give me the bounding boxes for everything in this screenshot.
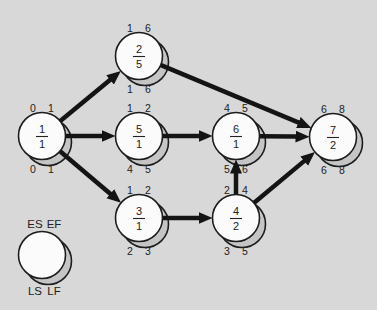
activity-duration: 1 — [136, 138, 142, 150]
early-finish-value: 6 — [145, 22, 151, 34]
early-start-value: 6 — [321, 103, 327, 115]
early-finish-value: 4 — [242, 184, 248, 196]
early-start-value: 1 — [127, 184, 133, 196]
activity-number: 2 — [136, 43, 142, 55]
early-start-value: 0 — [30, 102, 36, 114]
early-start-value: 4 — [224, 102, 230, 114]
early-finish-value: 2 — [145, 102, 151, 114]
activity-number: 7 — [330, 124, 336, 136]
activity-duration: 5 — [136, 58, 142, 70]
early-start-value: 1 — [127, 22, 133, 34]
late-finish-value: 3 — [145, 245, 151, 257]
late-start-value: 5 — [224, 163, 230, 175]
legend-ef-label: EF — [47, 218, 62, 230]
early-start-value: 2 — [224, 184, 230, 196]
late-finish-value: 6 — [242, 163, 248, 175]
early-finish-value: 5 — [242, 102, 248, 114]
early-finish-value: 8 — [339, 103, 345, 115]
late-finish-value: 5 — [145, 163, 151, 175]
activity-number: 3 — [136, 205, 142, 217]
legend-node-circle — [19, 232, 66, 279]
late-start-value: 1 — [127, 83, 133, 95]
late-start-value: 3 — [224, 245, 230, 257]
late-start-value: 2 — [127, 245, 133, 257]
late-finish-value: 6 — [145, 83, 151, 95]
late-finish-value: 8 — [339, 164, 345, 176]
late-start-value: 6 — [321, 164, 327, 176]
activity-number: 4 — [233, 205, 239, 217]
late-start-value: 4 — [127, 163, 133, 175]
network-diagram: 1101012516165112453112236145564224357268… — [0, 0, 377, 310]
early-start-value: 1 — [127, 102, 133, 114]
late-finish-value: 5 — [242, 245, 248, 257]
legend-es-label: ES — [27, 218, 43, 230]
activity-number: 6 — [233, 123, 239, 135]
legend-lf-label: LF — [47, 285, 60, 297]
activity-number: 5 — [136, 123, 142, 135]
activity-duration: 1 — [233, 138, 239, 150]
activity-number: 1 — [39, 123, 45, 135]
late-finish-value: 1 — [48, 163, 54, 175]
activity-duration: 1 — [136, 220, 142, 232]
activity-duration: 2 — [233, 220, 239, 232]
late-start-value: 0 — [30, 163, 36, 175]
early-finish-value: 1 — [48, 102, 54, 114]
activity-duration: 1 — [39, 138, 45, 150]
early-finish-value: 2 — [145, 184, 151, 196]
legend-ls-label: LS — [28, 285, 42, 297]
activity-duration: 2 — [330, 139, 336, 151]
figure-canvas: 1101012516165112453112236145564224357268… — [0, 0, 377, 310]
